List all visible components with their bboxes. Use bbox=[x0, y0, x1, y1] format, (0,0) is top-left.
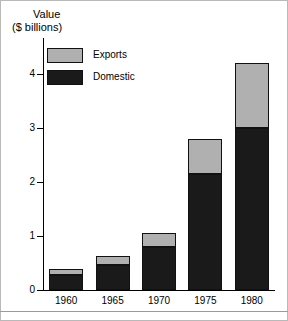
y-tick-mark bbox=[37, 236, 43, 237]
y-tick-mark bbox=[37, 290, 43, 291]
bar-segment-domestic[interactable] bbox=[96, 265, 130, 290]
bar-segment-exports[interactable] bbox=[235, 63, 269, 128]
x-axis-line bbox=[43, 290, 275, 291]
bar-segment-domestic[interactable] bbox=[188, 174, 222, 290]
x-tick-label: 1975 bbox=[185, 295, 225, 306]
y-tick-label: 3 bbox=[15, 122, 35, 133]
x-tick-label: 1980 bbox=[232, 295, 272, 306]
x-tick-label: 1960 bbox=[46, 295, 86, 306]
legend-swatch-domestic bbox=[47, 70, 83, 85]
bar-segment-exports[interactable] bbox=[96, 256, 130, 265]
legend-label-exports: Exports bbox=[93, 49, 127, 60]
y-tick-mark bbox=[37, 128, 43, 129]
bar-segment-domestic[interactable] bbox=[49, 275, 83, 290]
y-tick-mark bbox=[37, 74, 43, 75]
bar-segment-domestic[interactable] bbox=[235, 128, 269, 290]
bar-segment-exports[interactable] bbox=[188, 139, 222, 174]
bar-group[interactable] bbox=[49, 269, 83, 290]
figure-bottom-rule bbox=[0, 311, 288, 312]
y-axis-title-line2: ($ billions) bbox=[12, 21, 62, 34]
y-tick-mark bbox=[37, 182, 43, 183]
x-tick-label: 1970 bbox=[139, 295, 179, 306]
bar-group[interactable] bbox=[142, 233, 176, 290]
bar-segment-exports[interactable] bbox=[142, 233, 176, 247]
bar-group[interactable] bbox=[96, 256, 130, 290]
legend-label-domestic: Domestic bbox=[93, 71, 135, 82]
legend-swatch-exports bbox=[47, 48, 83, 63]
y-tick-label: 1 bbox=[15, 230, 35, 241]
y-tick-label: 2 bbox=[15, 176, 35, 187]
chart-figure: Value ($ billions) 01234 196019651970197… bbox=[0, 0, 288, 321]
y-tick-label: 4 bbox=[15, 68, 35, 79]
bar-group[interactable] bbox=[188, 139, 222, 290]
y-axis-line bbox=[43, 38, 44, 291]
bar-group[interactable] bbox=[235, 63, 269, 290]
bar-segment-domestic[interactable] bbox=[142, 247, 176, 290]
x-tick-label: 1965 bbox=[93, 295, 133, 306]
y-tick-label: 0 bbox=[15, 284, 35, 295]
y-axis-title-line1: Value bbox=[33, 8, 60, 21]
